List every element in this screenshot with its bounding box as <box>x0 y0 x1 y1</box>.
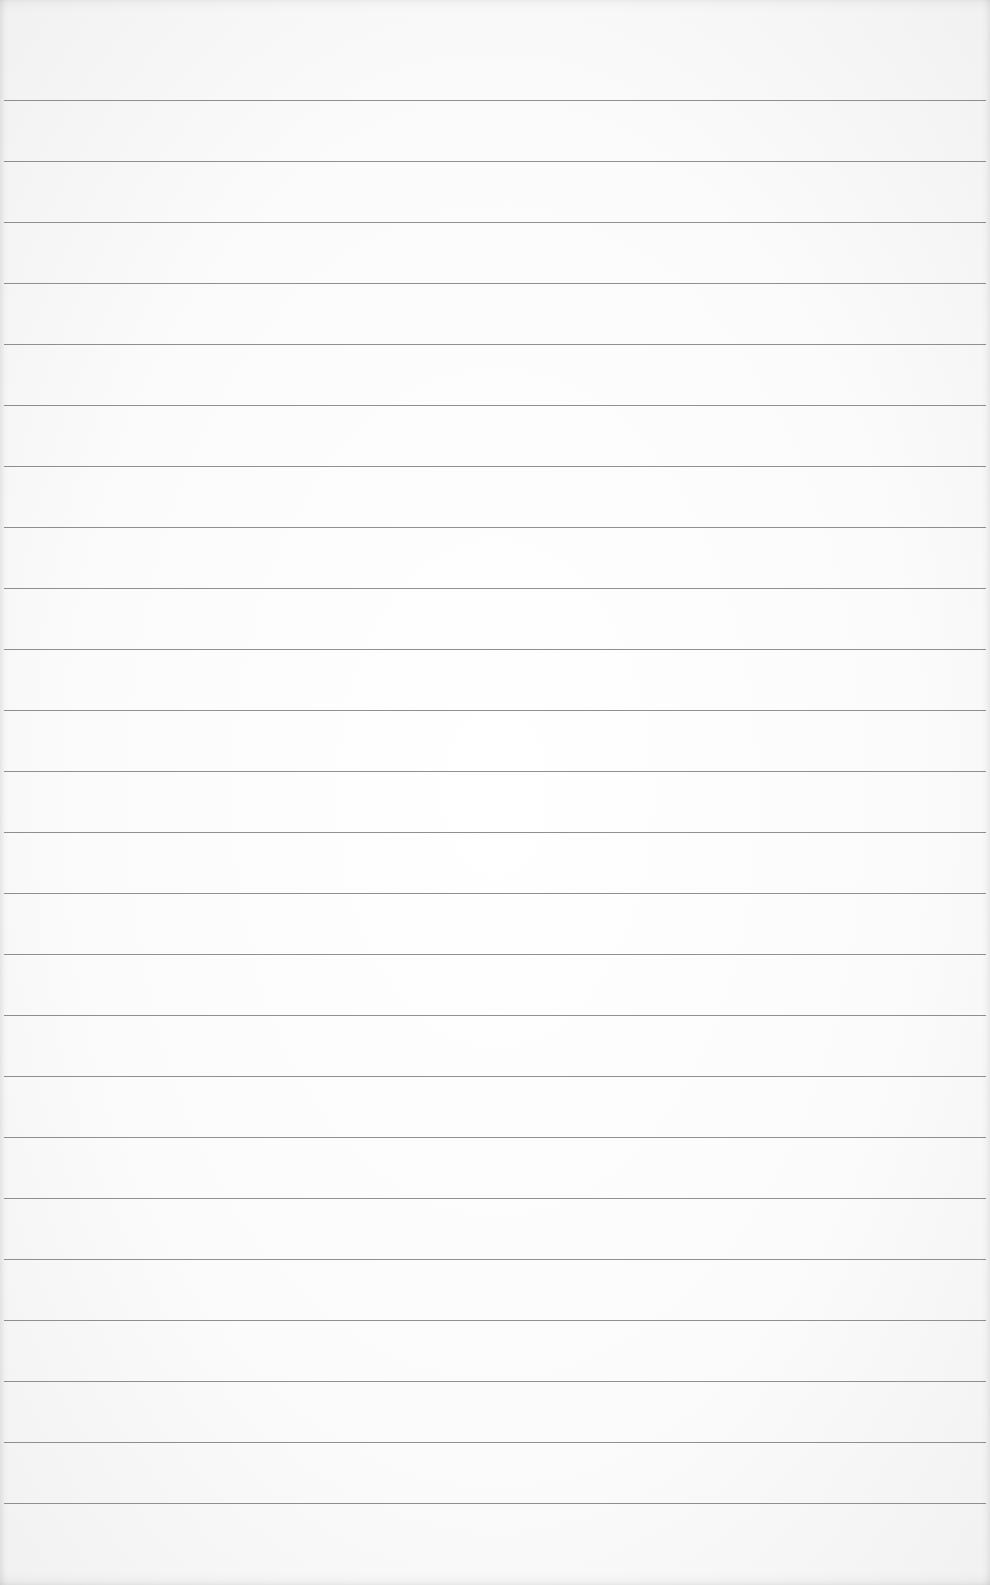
ruled-line <box>4 222 986 223</box>
ruled-line <box>4 954 986 955</box>
ruled-line <box>4 1381 986 1382</box>
ruled-line <box>4 832 986 833</box>
ruled-line <box>4 161 986 162</box>
ruled-line <box>4 1320 986 1321</box>
ruled-line <box>4 1137 986 1138</box>
ruled-line <box>4 1015 986 1016</box>
ruled-paper-sheet <box>0 0 990 1585</box>
ruled-line <box>4 1503 986 1504</box>
ruled-line <box>4 1198 986 1199</box>
ruled-line <box>4 649 986 650</box>
ruled-line <box>4 1076 986 1077</box>
ruled-line <box>4 283 986 284</box>
ruled-line <box>4 771 986 772</box>
ruled-line <box>4 1259 986 1260</box>
ruled-line <box>4 466 986 467</box>
ruled-line <box>4 344 986 345</box>
ruled-line <box>4 710 986 711</box>
ruled-line <box>4 1442 986 1443</box>
ruled-line <box>4 588 986 589</box>
ruled-line <box>4 527 986 528</box>
ruled-line <box>4 893 986 894</box>
ruled-line <box>4 405 986 406</box>
ruled-line <box>4 100 986 101</box>
